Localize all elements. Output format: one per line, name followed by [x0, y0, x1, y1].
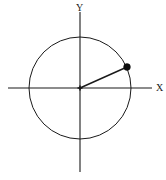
x-axis-label: X — [156, 82, 164, 93]
canvas-background — [0, 0, 166, 180]
diagram-canvas: Y X — [0, 0, 166, 180]
point-marker-dot — [124, 64, 131, 71]
y-axis-label: Y — [76, 2, 83, 13]
circle-diagram: Y X — [0, 0, 166, 180]
